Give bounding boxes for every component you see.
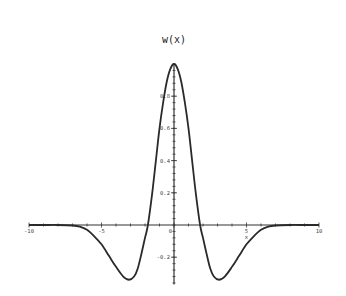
wavelet-chart: w(x) -10-5510 -0.20.20.40.60.8 0 x [0, 0, 346, 296]
axes [29, 64, 319, 285]
x-tick-label: 10 [316, 228, 323, 234]
x-tick-label: -5 [98, 228, 105, 234]
x-tick-label: -10 [24, 228, 34, 234]
y-tick-label: 0.2 [160, 190, 170, 196]
chart-title: w(x) [162, 34, 186, 45]
x-ticks: -10-5510 [24, 223, 322, 235]
origin-label: 0 [169, 228, 172, 234]
y-tick-label: 0.4 [160, 158, 171, 164]
x-axis-label: x [245, 234, 249, 240]
y-tick-label: 0.6 [160, 125, 170, 131]
y-tick-label: -0.2 [157, 254, 170, 260]
